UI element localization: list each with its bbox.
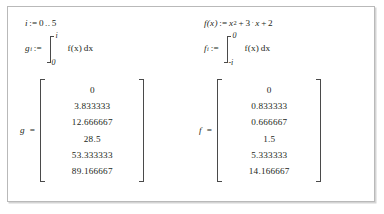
g-result-matrix: 0 3.833333 12.666667 28.5 53.333333 89.1… (40, 79, 144, 182)
matrix-bracket-left (217, 79, 222, 182)
g-integral-upper-limit: i (55, 31, 57, 40)
f-matrix-label: f (199, 126, 202, 135)
table-row: 3.833333 (49, 98, 135, 114)
matrix-bracket-right (139, 79, 144, 182)
g-matrix-equals: = (30, 126, 35, 135)
f-matrix-equals: = (207, 126, 212, 135)
table-row: 89.166667 (49, 163, 135, 179)
g-matrix-label: g (20, 126, 25, 135)
matrix-bracket-left (40, 79, 45, 182)
f-integral-lower-limit: -i (228, 58, 233, 67)
range-end-value: 5 (52, 19, 57, 28)
table-row: 1.5 (226, 131, 312, 147)
f-result-region[interactable]: f = 0 0.833333 0.666667 1.5 5.333333 14.… (199, 79, 321, 182)
range-dots: .. (44, 19, 52, 28)
f-integral-expression: 0 -i f(x) dx (223, 34, 271, 64)
g-matrix-rows: 0 3.833333 12.666667 28.5 53.333333 89.1… (49, 82, 135, 179)
g-integral-expression: i 0 f(x) dx (46, 34, 94, 64)
g-integral-lower-limit: 0 (51, 58, 55, 67)
function-definition[interactable]: f(x) := x 2 + 3 · x + 2 (204, 19, 273, 28)
table-row: 0 (49, 82, 135, 98)
integral-hook-top (50, 36, 54, 37)
table-row: 12.666667 (49, 114, 135, 130)
f-integral-sign-with-limits: 0 -i (223, 34, 232, 64)
table-row: 5.333333 (226, 147, 312, 163)
g-assign-operator: := (32, 44, 43, 53)
g-result-region[interactable]: g = 0 3.833333 12.666667 28.5 53.333333 … (20, 79, 144, 182)
table-row: 14.166667 (226, 163, 312, 179)
f-integrand: f(x) (244, 44, 259, 53)
table-row: 0.666667 (226, 114, 312, 130)
integral-hook-top (227, 36, 231, 37)
f-integral-definition[interactable]: f i := 0 -i f(x) dx (204, 34, 272, 64)
function-plus-operator-2: + (260, 19, 268, 28)
f-matrix-rows: 0 0.833333 0.666667 1.5 5.333333 14.1666… (226, 82, 312, 179)
table-row: 0 (226, 82, 312, 98)
function-plus-operator-1: + (237, 19, 245, 28)
g-integral-definition[interactable]: g i := i 0 f(x) dx (25, 34, 95, 64)
f-assign-operator: := (209, 44, 220, 53)
table-row: 0.833333 (226, 98, 312, 114)
function-name: f(x) (204, 19, 218, 28)
f-integral-upper-limit: 0 (232, 31, 236, 40)
g-differential: dx (82, 44, 95, 53)
g-integral-sign-with-limits: i 0 (46, 34, 55, 64)
table-row: 28.5 (49, 131, 135, 147)
function-assign-operator: := (218, 19, 229, 28)
g-integrand: f(x) (67, 44, 82, 53)
matrix-bracket-right (316, 79, 321, 182)
mathcad-worksheet-canvas[interactable]: i := 0 .. 5 g i := i 0 f(x) dx g = (7, 6, 375, 202)
range-variable-definition[interactable]: i := 0 .. 5 (25, 19, 57, 28)
f-differential: dx (259, 44, 272, 53)
table-row: 53.333333 (49, 147, 135, 163)
f-result-matrix: 0 0.833333 0.666667 1.5 5.333333 14.1666… (217, 79, 321, 182)
range-assign-operator: := (28, 19, 39, 28)
function-constant: 2 (268, 19, 273, 28)
